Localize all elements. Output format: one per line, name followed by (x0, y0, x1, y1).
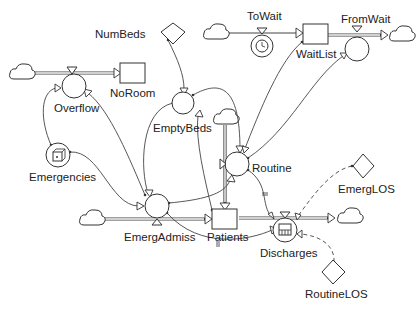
label-routinelos: RoutineLOS (305, 288, 368, 300)
const-emerglos[interactable] (353, 154, 374, 178)
link-routine-discharges (248, 170, 272, 217)
link-numbeds-emptybeds (168, 40, 184, 89)
flow-fromwait[interactable] (345, 26, 369, 61)
label-noroom: NoRoom (110, 87, 155, 99)
label-overflow: Overflow (54, 102, 100, 114)
link-emergadmiss-routine (169, 180, 230, 203)
cloud-icon (390, 26, 416, 41)
label-emergencies: Emergencies (29, 171, 96, 183)
label-emerglos: EmergLOS (338, 183, 395, 195)
aux-emptybeds[interactable] (172, 92, 194, 114)
cloud-icon (204, 24, 230, 39)
label-emergadmiss: EmergAdmiss (124, 231, 196, 243)
aux-emergencies[interactable] (46, 143, 70, 167)
label-routine: Routine (252, 162, 292, 174)
cloud-icon (10, 64, 36, 79)
stock-noroom[interactable] (120, 63, 145, 83)
conveyor-icon (279, 224, 291, 235)
stock-patients[interactable] (212, 209, 237, 229)
flow-towait[interactable] (251, 28, 273, 57)
cloud-icon (214, 109, 240, 124)
link-waitlist-routine (244, 42, 302, 151)
stock-flow-diagram: NumBeds ToWait FromWait WaitList NoRoom … (0, 0, 419, 311)
label-numbeds: NumBeds (95, 28, 146, 40)
label-waitlist: WaitList (296, 48, 337, 60)
cloud-icon (338, 208, 364, 223)
const-numbeds[interactable] (161, 23, 185, 44)
const-routinelos[interactable] (322, 260, 345, 284)
link-emergencies-overflow (43, 88, 56, 145)
label-patients: Patients (207, 231, 249, 243)
cloud-icon (80, 210, 106, 225)
label-emptybeds: EmptyBeds (153, 122, 212, 134)
label-fromwait: FromWait (341, 13, 391, 25)
label-towait: ToWait (247, 10, 283, 22)
valve-icon (352, 26, 362, 32)
link-emptybeds-emergadmiss (144, 103, 173, 193)
label-discharges: Discharges (260, 247, 318, 259)
stock-waitlist[interactable] (303, 24, 328, 44)
